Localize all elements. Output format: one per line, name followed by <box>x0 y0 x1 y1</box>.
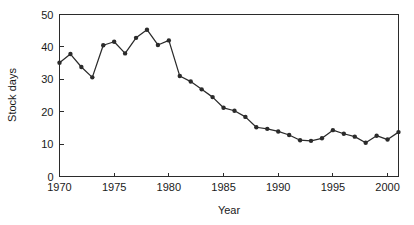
data-point <box>199 87 203 91</box>
plot-frame <box>60 15 399 177</box>
data-point <box>320 136 324 140</box>
axis-frame <box>60 15 399 177</box>
data-point <box>298 138 302 142</box>
data-point <box>276 129 280 133</box>
data-point <box>232 109 236 113</box>
y-axis-ticks <box>60 15 64 177</box>
x-axis-title: Year <box>218 204 241 216</box>
x-tick-label: 2000 <box>375 181 399 193</box>
data-point <box>265 127 269 131</box>
x-axis-ticks <box>60 173 388 177</box>
data-point <box>210 95 214 99</box>
data-point <box>396 130 400 134</box>
data-point <box>79 65 83 69</box>
data-point <box>189 79 193 83</box>
x-axis-tick-labels: 1970197519801985199019952000 <box>47 181 400 193</box>
data-point <box>123 51 127 55</box>
y-tick-label: 30 <box>41 73 53 85</box>
data-point <box>145 28 149 32</box>
x-tick-label: 1980 <box>157 181 181 193</box>
data-point <box>156 43 160 47</box>
data-point <box>167 38 171 42</box>
data-point <box>363 141 367 145</box>
data-point <box>178 74 182 78</box>
data-point <box>331 128 335 132</box>
chart-canvas: 01020304050 1970197519801985199019952000… <box>0 0 414 225</box>
data-point <box>309 139 313 143</box>
data-point <box>134 36 138 40</box>
data-point <box>342 132 346 136</box>
x-tick-label: 1970 <box>47 181 71 193</box>
y-tick-label: 50 <box>41 9 53 21</box>
stock-days-line-chart: 01020304050 1970197519801985199019952000… <box>0 0 414 225</box>
x-tick-label: 1975 <box>102 181 126 193</box>
data-point <box>90 75 94 79</box>
x-tick-label: 1985 <box>211 181 235 193</box>
data-point <box>374 133 378 137</box>
data-point <box>243 115 247 119</box>
series-line-stock-days <box>60 30 399 143</box>
data-point <box>221 106 225 110</box>
data-point <box>57 61 61 65</box>
data-point <box>68 52 72 56</box>
x-tick-label: 1990 <box>266 181 290 193</box>
data-series-group <box>57 28 400 145</box>
data-point <box>254 125 258 129</box>
y-tick-label: 40 <box>41 41 53 53</box>
data-point <box>353 134 357 138</box>
x-tick-label: 1995 <box>321 181 345 193</box>
data-point <box>112 40 116 44</box>
data-point <box>385 137 389 141</box>
y-tick-label: 10 <box>41 138 53 150</box>
y-axis-title: Stock days <box>6 68 18 122</box>
data-point <box>101 43 105 47</box>
y-axis-tick-labels: 01020304050 <box>41 9 53 183</box>
y-tick-label: 20 <box>41 106 53 118</box>
data-point <box>287 133 291 137</box>
